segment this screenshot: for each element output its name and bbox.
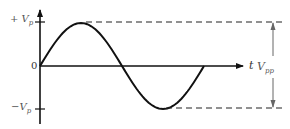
positive-peak-symbol: V xyxy=(22,13,29,24)
origin-label: 0 xyxy=(31,60,37,71)
waveform-canvas xyxy=(0,0,290,129)
peak-to-peak-subscript: pp xyxy=(265,67,274,75)
negative-peak-subscript: p xyxy=(27,107,31,115)
positive-peak-label: + Vp xyxy=(10,13,33,24)
positive-peak-subscript: p xyxy=(29,19,33,27)
sine-wave-diagram: + Vp 0 −Vp t Vpp xyxy=(0,0,290,129)
negative-peak-label: −Vp xyxy=(11,101,31,112)
positive-peak-sign: + xyxy=(10,13,18,24)
peak-to-peak-symbol: V xyxy=(257,60,265,73)
time-axis-label: t xyxy=(249,59,253,72)
peak-to-peak-label: Vpp xyxy=(256,60,275,73)
negative-peak-symbol: V xyxy=(19,101,26,112)
